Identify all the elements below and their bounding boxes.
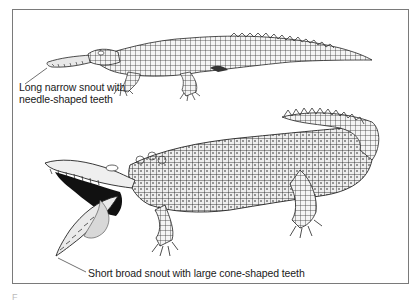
narrow-snout-label: Long narrow snout with needle-shaped tee…	[19, 81, 129, 105]
figure-caption-fragment: F	[12, 292, 18, 302]
pointer-line-bottom	[58, 258, 86, 272]
broad-snout-crocodile	[45, 108, 379, 256]
broad-snout-label: Short broad snout with large cone-shaped…	[88, 267, 305, 279]
